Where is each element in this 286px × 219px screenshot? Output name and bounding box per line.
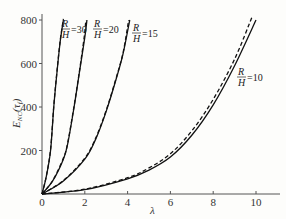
x-tick-label: 10 [251, 196, 263, 208]
svg-text:=10: =10 [247, 72, 263, 83]
svg-text:ENC(τf): ENC(τf) [10, 98, 24, 129]
x-tick-label: 0 [39, 196, 45, 208]
label-rh-10: R H =10 [237, 66, 263, 88]
y-tick-label: 200 [21, 145, 38, 157]
svg-text:=20: =20 [103, 24, 119, 35]
label-rh-20: R H =20 [93, 18, 119, 40]
svg-text:R: R [237, 66, 244, 77]
x-axis-label: λ [149, 204, 155, 216]
x-tick-label: 6 [168, 196, 174, 208]
y-axis-label: ENC(τf) [10, 98, 24, 129]
svg-text:H: H [237, 77, 246, 88]
curves [42, 18, 256, 194]
curve-r-h-15-dashed [42, 20, 129, 194]
svg-text:R: R [61, 18, 68, 29]
svg-text:H: H [132, 33, 141, 44]
y-tick-label: 800 [21, 14, 38, 26]
chart-canvas: 200400600800 0246810 λ ENC(τf) R H =30 R… [0, 0, 286, 219]
svg-text:H: H [93, 29, 102, 40]
y-ticks: 200400600800 [21, 14, 43, 157]
x-tick-label: 2 [82, 196, 88, 208]
curve-r-h-20-solid [42, 20, 87, 194]
svg-text:R: R [93, 18, 100, 29]
curve-r-h-15-solid [42, 20, 130, 194]
svg-text:H: H [61, 29, 70, 40]
x-tick-label: 4 [125, 196, 131, 208]
curve-r-h-10-dashed [42, 18, 252, 194]
x-tick-label: 8 [210, 196, 216, 208]
label-rh-30: R H =30 [61, 18, 87, 40]
svg-text:=15: =15 [142, 28, 158, 39]
svg-text:R: R [132, 22, 139, 33]
y-tick-label: 600 [21, 58, 38, 70]
svg-text:=30: =30 [71, 24, 87, 35]
label-rh-15: R H =15 [132, 22, 158, 44]
